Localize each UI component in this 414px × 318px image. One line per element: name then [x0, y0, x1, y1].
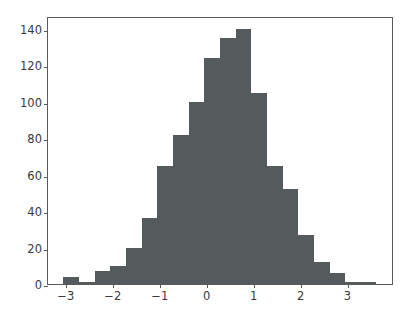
histogram-bar — [110, 266, 126, 284]
histogram-bar — [361, 282, 377, 284]
y-tick-mark — [44, 286, 48, 287]
y-tick-mark — [44, 250, 48, 251]
y-tick-mark — [44, 67, 48, 68]
histogram-figure: 020406080100120140 −3−2−10123 — [0, 0, 414, 318]
x-tick-label: −1 — [151, 291, 168, 303]
x-tick-mark — [66, 284, 67, 288]
x-tick-mark — [301, 284, 302, 288]
x-tick-mark — [113, 284, 114, 288]
histogram-bar — [126, 248, 142, 284]
histogram-bar — [251, 93, 267, 284]
y-tick-mark — [44, 140, 48, 141]
y-tick-label: 120 — [20, 61, 42, 73]
y-tick-label: 140 — [20, 25, 42, 37]
x-tick-mark — [207, 284, 208, 288]
x-tick-mark — [254, 284, 255, 288]
x-tick-label: 0 — [203, 291, 210, 303]
histogram-bar — [142, 218, 158, 284]
x-tick-mark — [348, 284, 349, 288]
histogram-bar — [314, 262, 330, 284]
y-tick-mark — [44, 104, 48, 105]
y-tick-mark — [44, 31, 48, 32]
x-tick-label: 2 — [297, 291, 304, 303]
y-tick-mark — [44, 213, 48, 214]
histogram-bar — [204, 58, 220, 284]
x-tick-mark — [160, 284, 161, 288]
histogram-bar — [267, 166, 283, 285]
histogram-bar — [330, 273, 346, 284]
histogram-bar — [298, 235, 314, 284]
y-tick-label: 40 — [27, 207, 42, 219]
y-tick-label: 20 — [27, 244, 42, 256]
histogram-bar — [283, 189, 299, 284]
histogram-bar — [220, 38, 236, 284]
y-tick-label: 80 — [27, 134, 42, 146]
histogram-bar — [95, 271, 111, 284]
histogram-bar — [189, 102, 205, 284]
plot-axes: 020406080100120140 −3−2−10123 — [47, 17, 393, 285]
x-tick-label: −2 — [104, 291, 121, 303]
histogram-bar — [157, 166, 173, 285]
histogram-bar — [173, 135, 189, 285]
x-tick-label: 1 — [250, 291, 257, 303]
y-tick-mark — [44, 177, 48, 178]
histogram-bar — [79, 282, 95, 284]
x-tick-label: −3 — [57, 291, 74, 303]
histogram-bar — [236, 29, 252, 284]
y-tick-label: 0 — [35, 280, 42, 292]
x-tick-label: 3 — [344, 291, 351, 303]
y-tick-label: 100 — [20, 98, 42, 110]
histogram-bar — [63, 277, 79, 284]
y-tick-label: 60 — [27, 171, 42, 183]
bars-layer — [48, 18, 392, 284]
